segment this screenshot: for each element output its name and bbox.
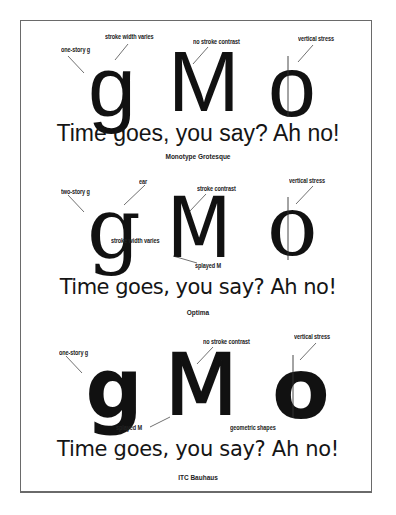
label-vertical-stress-optima: vertical stress <box>289 177 325 184</box>
label-stroke-width-varies: stroke width varies <box>105 33 153 40</box>
glyph-g-optima: g <box>87 186 141 270</box>
label-geometric-shapes: geometric shapes <box>230 424 276 431</box>
label-splayed-m-optima: splayed M <box>195 262 221 269</box>
label-two-story-g: two-story g <box>61 188 90 195</box>
glyph-o-bauhaus: o <box>272 347 330 431</box>
label-no-stroke-contrast-bauhaus: no stroke contrast <box>203 338 250 345</box>
label-vertical-stress: vertical stress <box>298 35 334 42</box>
typeface-caption-optima: Optima <box>0 309 396 316</box>
label-stroke-width-varies-optima: stroke width varies <box>111 237 159 244</box>
sample-sentence-bauhaus: Time goes, you say? Ah no! <box>0 437 396 461</box>
typeface-caption-grotesque: Monotype Grotesque <box>0 153 396 160</box>
glyph-o-optima: o <box>267 184 318 268</box>
glyph-m-bauhaus: M <box>165 343 237 427</box>
label-one-story-g: one-story g <box>61 46 90 53</box>
glyph-m-grotesque: M <box>168 38 240 124</box>
glyph-g-grotesque: g <box>88 43 136 129</box>
sample-sentence-optima: Time goes, you say? Ah no! <box>0 275 396 299</box>
label-vertical-stress-bauhaus: vertical stress <box>294 333 330 340</box>
label-ear: ear <box>139 178 147 185</box>
label-no-stroke-contrast: no stroke contrast <box>193 38 240 45</box>
label-splayed-m-bauhaus: splayed M <box>116 424 142 431</box>
glyph-g-bauhaus: g <box>86 347 143 431</box>
label-stroke-contrast: stroke contrast <box>197 185 236 192</box>
sample-sentence-grotesque: Time goes, you say? Ah no! <box>0 120 396 147</box>
glyph-m-optima: M <box>167 186 232 270</box>
typeface-caption-bauhaus: ITC Bauhaus <box>0 474 396 481</box>
label-one-story-g-bauhaus: one-story g <box>59 349 88 356</box>
glyph-o-grotesque: o <box>268 43 316 129</box>
